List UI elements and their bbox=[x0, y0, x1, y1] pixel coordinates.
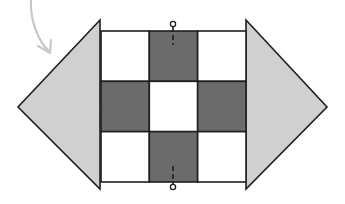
grid-square-dark bbox=[198, 81, 246, 131]
diagram-canvas bbox=[0, 0, 345, 204]
grid-square-light bbox=[101, 31, 149, 81]
right-triangle bbox=[246, 20, 327, 189]
left-triangle bbox=[18, 20, 100, 189]
top-marker-icon bbox=[170, 21, 175, 26]
grid-square-light bbox=[101, 132, 149, 182]
bottom-marker-icon bbox=[170, 184, 175, 189]
grid-square-light bbox=[198, 31, 246, 81]
grid-square-dark bbox=[101, 81, 149, 131]
grid-square-light bbox=[198, 132, 246, 182]
grid-square-light bbox=[149, 81, 197, 131]
curved-arrow-icon bbox=[31, 0, 50, 52]
quilt-diagram bbox=[0, 0, 345, 204]
